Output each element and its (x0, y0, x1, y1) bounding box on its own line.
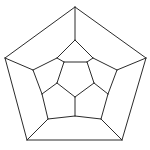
figure-canvas (0, 0, 150, 150)
dodecahedral-graph-diagram (0, 0, 150, 150)
